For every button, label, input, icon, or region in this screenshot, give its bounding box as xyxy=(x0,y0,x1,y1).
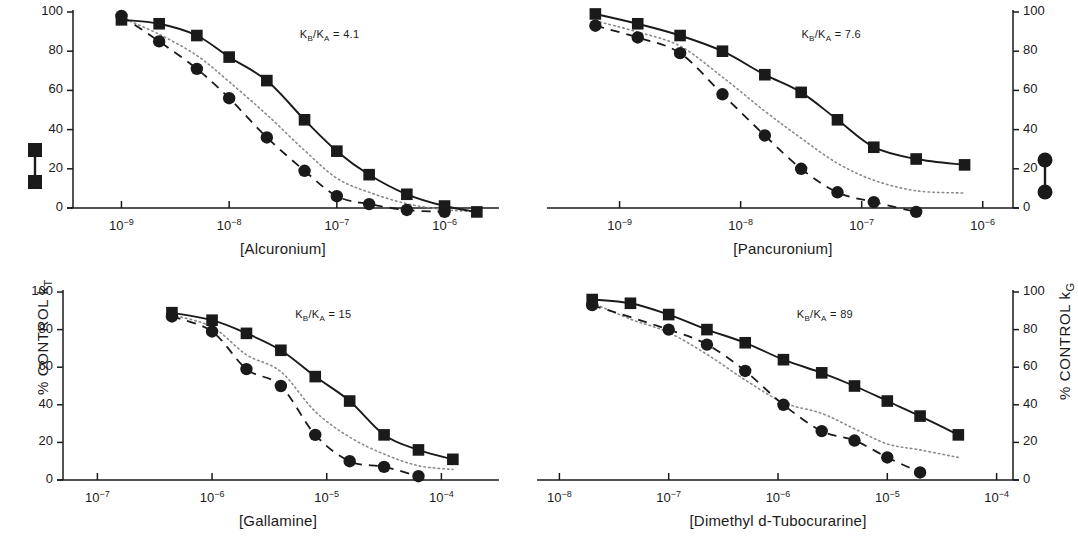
panel-dimethyl-d-tubocurarine: 02040608010010−810−710−610−510−4[Dimethy… xyxy=(0,0,1078,552)
kg-data-point xyxy=(777,399,789,411)
kt-data-point xyxy=(816,367,828,379)
kt-fit-curve xyxy=(592,300,958,435)
kt-data-point xyxy=(953,429,965,441)
y-tick-label: 100 xyxy=(1023,283,1067,298)
y-tick-label: 80 xyxy=(1023,321,1067,336)
kg-fit-curve xyxy=(592,305,920,472)
kt-data-point xyxy=(914,410,926,422)
y-tick-label: 0 xyxy=(1023,471,1067,486)
x-axis-title-dimethyl-d-tubocurarine: [Dimethyl d-Tubocurarine] xyxy=(578,512,978,529)
predicted-dotted-curve xyxy=(592,303,958,458)
y-tick-label: 40 xyxy=(1023,396,1067,411)
x-tick-label: 10−8 xyxy=(529,489,589,505)
kg-data-point xyxy=(816,425,828,437)
kt-data-point xyxy=(882,395,894,407)
k-ratio-annotation-dimethyl-d-tubocurarine: KB/KA = 89 xyxy=(797,308,853,323)
y-tick-label: 60 xyxy=(1023,358,1067,373)
kt-data-point xyxy=(663,309,675,321)
kg-data-point xyxy=(848,434,860,446)
x-tick-label: 10−5 xyxy=(857,489,917,505)
kt-data-point xyxy=(739,337,751,349)
kt-data-point xyxy=(849,380,861,392)
kg-data-point xyxy=(914,466,926,478)
y-tick-label: 20 xyxy=(1023,433,1067,448)
plot-area-dimethyl-d-tubocurarine xyxy=(0,0,1078,552)
kg-data-point xyxy=(701,338,713,350)
figure-canvas: % CONTROL kT % CONTROL kG 02040608010010… xyxy=(0,0,1078,552)
kt-data-point xyxy=(586,294,598,306)
x-tick-label: 10−6 xyxy=(748,489,808,505)
kt-data-point xyxy=(701,324,713,336)
kt-data-point xyxy=(625,297,637,309)
x-tick-label: 10−7 xyxy=(639,489,699,505)
x-tick-label: 10−4 xyxy=(967,489,1027,505)
kg-data-point xyxy=(739,365,751,377)
kt-data-point xyxy=(778,354,790,366)
kg-data-point xyxy=(662,323,674,335)
kg-data-point xyxy=(881,451,893,463)
